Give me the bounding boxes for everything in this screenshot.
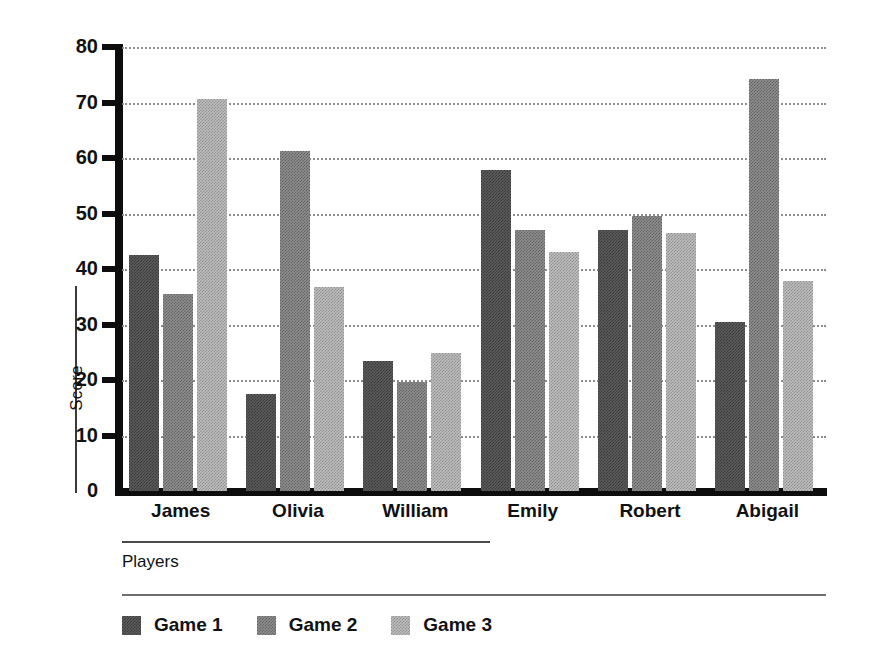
bar-robert-game-2	[632, 216, 662, 491]
y-tick-mark	[102, 377, 116, 383]
bar-james-game-1	[129, 255, 159, 491]
legend-label: Game 2	[289, 614, 358, 636]
bar-james-game-2	[163, 294, 193, 491]
y-tick-label: 70	[52, 92, 98, 112]
x-axis-label: Players	[122, 552, 179, 572]
bar-robert-game-3	[666, 233, 696, 491]
bar-abigail-game-1	[715, 322, 745, 491]
bar-olivia-game-3	[314, 287, 344, 491]
y-tick-mark	[102, 322, 116, 328]
legend-label: Game 1	[154, 614, 223, 636]
bar-olivia-game-1	[246, 394, 276, 491]
category-label-james: James	[122, 500, 239, 522]
category-label-robert: Robert	[591, 500, 708, 522]
bar-william-game-2	[397, 382, 427, 491]
category-label-emily: Emily	[474, 500, 591, 522]
legend-item-game-2[interactable]: Game 2	[257, 614, 358, 636]
x-axis-label-rule	[122, 541, 490, 543]
y-tick-label: 50	[52, 203, 98, 223]
bar-emily-game-2	[515, 230, 545, 491]
y-tick-mark	[102, 155, 116, 161]
bar-emily-game-3	[549, 252, 579, 491]
legend-item-game-1[interactable]: Game 1	[122, 614, 223, 636]
y-tick-label: 10	[52, 425, 98, 445]
legend-item-game-3[interactable]: Game 3	[391, 614, 492, 636]
category-label-william: William	[357, 500, 474, 522]
gridline	[122, 214, 826, 216]
y-tick-label: 40	[52, 258, 98, 278]
y-tick-mark	[102, 433, 116, 439]
y-tick-label: 60	[52, 147, 98, 167]
y-tick-label: 20	[52, 369, 98, 389]
bar-chart: Score 01020304050607080 JamesOliviaWilli…	[0, 0, 873, 653]
legend-swatch-icon	[122, 616, 141, 635]
bar-james-game-3	[197, 99, 227, 491]
y-tick-label: 80	[52, 36, 98, 56]
legend-swatch-icon	[391, 616, 410, 635]
y-tick-mark	[102, 44, 116, 50]
y-tick-label: 0	[52, 480, 98, 500]
category-label-olivia: Olivia	[239, 500, 356, 522]
y-tick-label: 30	[52, 314, 98, 334]
bar-abigail-game-3	[783, 281, 813, 491]
plot-area	[122, 47, 826, 491]
legend-swatch-icon	[257, 616, 276, 635]
y-tick-mark	[102, 211, 116, 217]
gridline	[122, 158, 826, 160]
y-tick-mark	[102, 100, 116, 106]
legend-rule	[122, 594, 826, 596]
category-label-abigail: Abigail	[709, 500, 826, 522]
legend-label: Game 3	[423, 614, 492, 636]
bar-emily-game-1	[481, 170, 511, 491]
legend: Game 1Game 2Game 3	[122, 612, 526, 638]
gridline	[122, 103, 826, 105]
bar-olivia-game-2	[280, 151, 310, 491]
bar-abigail-game-2	[749, 79, 779, 491]
bar-robert-game-1	[598, 230, 628, 491]
gridline	[122, 269, 826, 271]
bar-william-game-3	[431, 353, 461, 491]
bar-william-game-1	[363, 361, 393, 491]
y-tick-mark	[102, 266, 116, 272]
gridline	[122, 47, 826, 49]
